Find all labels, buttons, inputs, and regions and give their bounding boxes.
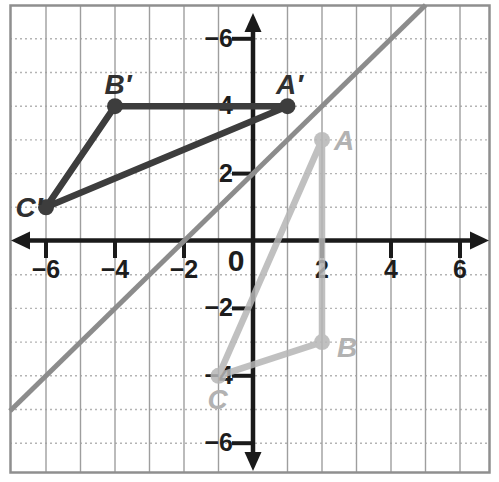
vertex-label: A — [333, 125, 354, 156]
graph-svg: −6−4−20246−642−2−4−6ABCA′B′C′ — [0, 0, 499, 482]
triangle-abc-vertex-dot — [211, 368, 227, 384]
x-tick-label: −6 — [32, 255, 61, 283]
vertex-label: B — [337, 332, 357, 363]
y-tick-label: −2 — [204, 293, 233, 321]
vertex-label: B′ — [105, 69, 133, 100]
y-tick-label: 2 — [219, 159, 233, 187]
vertex-label: C — [207, 384, 228, 415]
coordinate-plane-figure: −6−4−20246−642−2−4−6ABCA′B′C′ — [0, 0, 499, 482]
x-tick-label: 6 — [453, 255, 467, 283]
y-tick-label: −6 — [204, 24, 233, 52]
triangle-abc-vertex-dot — [314, 132, 330, 148]
triangle-a-b-c-prime-vertex-dot — [280, 98, 296, 114]
x-tick-label: −4 — [101, 255, 130, 283]
vertex-label: A′ — [275, 69, 304, 100]
origin-label: 0 — [228, 244, 245, 277]
x-tick-label: 4 — [384, 255, 398, 283]
triangle-a-b-c-prime-vertex-dot — [107, 98, 123, 114]
y-tick-label: −6 — [204, 428, 233, 456]
x-tick-label: −2 — [170, 255, 199, 283]
vertex-label: C′ — [16, 192, 44, 223]
triangle-abc-vertex-dot — [314, 334, 330, 350]
